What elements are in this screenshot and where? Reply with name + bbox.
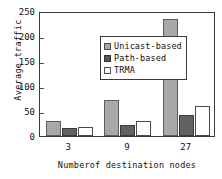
y-tick-label: 100 xyxy=(19,83,35,92)
legend-swatch-icon xyxy=(104,55,111,62)
y-tick-mark xyxy=(40,88,44,89)
legend-label: TRMA xyxy=(114,66,135,75)
bar xyxy=(62,128,77,136)
bar xyxy=(136,121,151,136)
legend-item: TRMA xyxy=(104,64,182,76)
bar xyxy=(179,115,194,137)
plot-area: Unicast-basedPath-basedTRMA xyxy=(39,12,215,137)
y-tick-label: 250 xyxy=(19,8,35,17)
bar xyxy=(78,127,93,136)
x-axis-title: Numberof destination nodes xyxy=(39,160,215,170)
y-tick-label: 200 xyxy=(19,33,35,42)
legend-item: Unicast-based xyxy=(104,40,182,52)
legend-swatch-icon xyxy=(104,67,111,74)
bar xyxy=(46,121,61,136)
legend-swatch-icon xyxy=(104,43,111,50)
bar-chart-figure: Average traffic 050100150200250 Unicast-… xyxy=(0,0,222,179)
y-tick-mark xyxy=(40,38,44,39)
legend-item: Path-based xyxy=(104,52,182,64)
x-tick-label: 27 xyxy=(180,142,191,152)
bar-group xyxy=(40,13,99,136)
legend-label: Unicast-based xyxy=(114,42,182,51)
x-tick-label: 9 xyxy=(124,142,129,152)
y-tick-mark xyxy=(40,63,44,64)
chart-legend: Unicast-basedPath-basedTRMA xyxy=(100,36,187,80)
bar xyxy=(120,125,135,136)
y-tick-mark xyxy=(40,113,44,114)
y-tick-label: 150 xyxy=(19,58,35,67)
x-axis-tick-labels: 3927 xyxy=(39,142,215,154)
y-tick-label: 50 xyxy=(24,108,35,117)
legend-label: Path-based xyxy=(114,54,166,63)
x-tick-label: 3 xyxy=(66,142,71,152)
y-tick-label: 0 xyxy=(30,133,35,142)
y-axis-tick-labels: 050100150200250 xyxy=(0,8,37,140)
bar xyxy=(195,106,210,137)
bar xyxy=(104,100,119,137)
